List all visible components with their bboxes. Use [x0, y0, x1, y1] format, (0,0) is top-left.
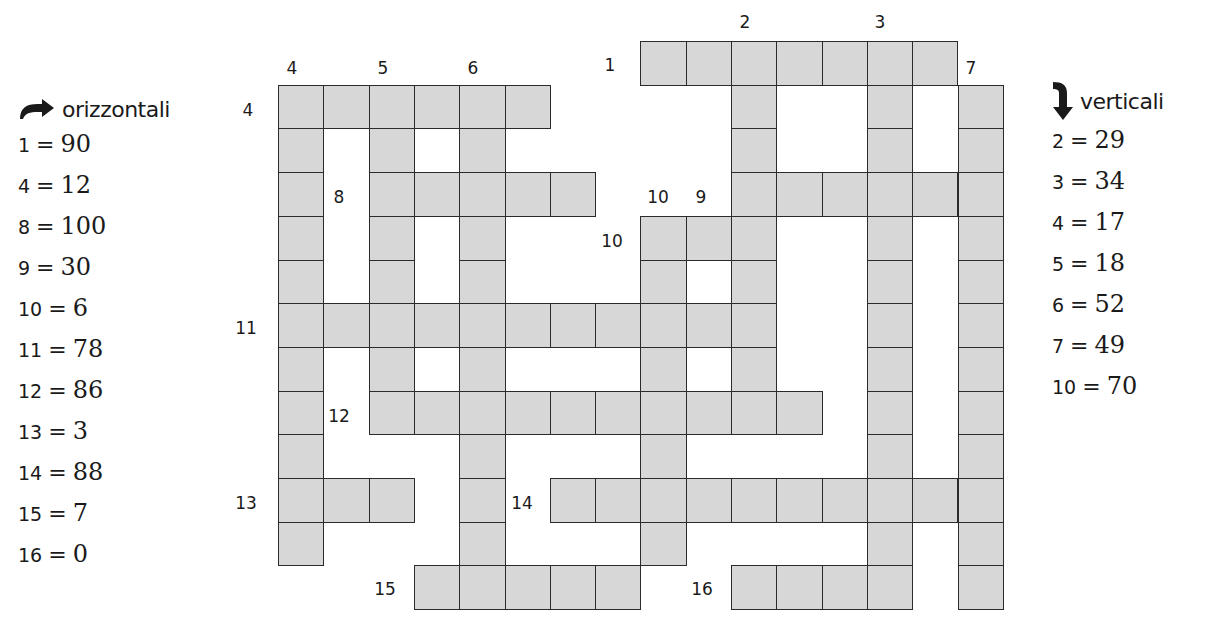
crossword-cell[interactable]: [912, 172, 958, 217]
crossword-cell[interactable]: [459, 522, 506, 566]
crossword-cell[interactable]: [958, 303, 1004, 348]
crossword-cell[interactable]: [550, 391, 596, 435]
crossword-cell[interactable]: [731, 85, 777, 129]
crossword-cell[interactable]: [369, 303, 415, 348]
crossword-cell[interactable]: [414, 391, 460, 435]
crossword-cell[interactable]: [867, 128, 913, 173]
crossword-cell[interactable]: [912, 41, 958, 86]
crossword-cell[interactable]: [640, 522, 687, 566]
crossword-cell[interactable]: [459, 434, 506, 479]
crossword-cell[interactable]: [505, 303, 551, 348]
crossword-cell[interactable]: [731, 41, 777, 86]
crossword-cell[interactable]: [731, 260, 777, 304]
crossword-cell[interactable]: [369, 347, 415, 392]
crossword-cell[interactable]: [822, 478, 868, 523]
crossword-cell[interactable]: [459, 128, 506, 173]
crossword-cell[interactable]: [369, 260, 415, 304]
crossword-cell[interactable]: [640, 260, 687, 304]
crossword-cell[interactable]: [731, 565, 777, 610]
crossword-cell[interactable]: [323, 478, 370, 523]
crossword-cell[interactable]: [731, 478, 777, 523]
crossword-cell[interactable]: [958, 347, 1004, 392]
crossword-cell[interactable]: [550, 565, 596, 610]
crossword-cell[interactable]: [595, 565, 641, 610]
crossword-cell[interactable]: [776, 391, 823, 435]
crossword-cell[interactable]: [731, 347, 777, 392]
crossword-cell[interactable]: [369, 391, 415, 435]
crossword-cell[interactable]: [459, 85, 506, 129]
crossword-cell[interactable]: [958, 128, 1004, 173]
crossword-cell[interactable]: [776, 478, 823, 523]
crossword-cell[interactable]: [958, 216, 1004, 261]
crossword-cell[interactable]: [459, 565, 506, 610]
crossword-cell[interactable]: [369, 478, 415, 523]
crossword-cell[interactable]: [867, 347, 913, 392]
crossword-cell[interactable]: [369, 172, 415, 217]
crossword-cell[interactable]: [414, 172, 460, 217]
crossword-cell[interactable]: [731, 216, 777, 261]
crossword-cell[interactable]: [278, 216, 324, 261]
crossword-cell[interactable]: [867, 172, 913, 217]
crossword-cell[interactable]: [867, 260, 913, 304]
crossword-cell[interactable]: [323, 303, 370, 348]
crossword-cell[interactable]: [278, 128, 324, 173]
crossword-cell[interactable]: [278, 522, 324, 566]
crossword-cell[interactable]: [595, 478, 641, 523]
crossword-cell[interactable]: [278, 347, 324, 392]
crossword-cell[interactable]: [958, 522, 1004, 566]
crossword-cell[interactable]: [414, 85, 460, 129]
crossword-cell[interactable]: [776, 565, 823, 610]
crossword-cell[interactable]: [731, 391, 777, 435]
crossword-cell[interactable]: [640, 303, 687, 348]
crossword-cell[interactable]: [550, 303, 596, 348]
crossword-cell[interactable]: [686, 478, 732, 523]
crossword-cell[interactable]: [414, 565, 460, 610]
crossword-cell[interactable]: [822, 172, 868, 217]
crossword-cell[interactable]: [867, 216, 913, 261]
crossword-cell[interactable]: [459, 260, 506, 304]
crossword-cell[interactable]: [459, 216, 506, 261]
crossword-cell[interactable]: [369, 128, 415, 173]
crossword-cell[interactable]: [459, 172, 506, 217]
crossword-cell[interactable]: [776, 41, 823, 86]
crossword-cell[interactable]: [505, 172, 551, 217]
crossword-cell[interactable]: [595, 391, 641, 435]
crossword-cell[interactable]: [776, 172, 823, 217]
crossword-cell[interactable]: [550, 172, 596, 217]
crossword-cell[interactable]: [731, 128, 777, 173]
crossword-cell[interactable]: [867, 391, 913, 435]
crossword-cell[interactable]: [640, 478, 687, 523]
crossword-cell[interactable]: [278, 478, 324, 523]
crossword-cell[interactable]: [640, 41, 687, 86]
crossword-cell[interactable]: [459, 391, 506, 435]
crossword-cell[interactable]: [278, 172, 324, 217]
crossword-cell[interactable]: [867, 85, 913, 129]
crossword-cell[interactable]: [323, 85, 370, 129]
crossword-cell[interactable]: [867, 434, 913, 479]
crossword-cell[interactable]: [278, 260, 324, 304]
crossword-cell[interactable]: [369, 85, 415, 129]
crossword-cell[interactable]: [731, 172, 777, 217]
crossword-cell[interactable]: [912, 478, 958, 523]
crossword-cell[interactable]: [640, 347, 687, 392]
crossword-cell[interactable]: [686, 216, 732, 261]
crossword-cell[interactable]: [867, 565, 913, 610]
crossword-cell[interactable]: [867, 522, 913, 566]
crossword-cell[interactable]: [278, 391, 324, 435]
crossword-cell[interactable]: [867, 478, 913, 523]
crossword-cell[interactable]: [414, 303, 460, 348]
crossword-cell[interactable]: [640, 434, 687, 479]
crossword-cell[interactable]: [640, 391, 687, 435]
crossword-cell[interactable]: [459, 347, 506, 392]
crossword-cell[interactable]: [958, 85, 1004, 129]
crossword-cell[interactable]: [278, 303, 324, 348]
crossword-cell[interactable]: [958, 391, 1004, 435]
crossword-cell[interactable]: [459, 303, 506, 348]
crossword-cell[interactable]: [686, 303, 732, 348]
crossword-cell[interactable]: [278, 434, 324, 479]
crossword-cell[interactable]: [686, 391, 732, 435]
crossword-cell[interactable]: [686, 41, 732, 86]
crossword-cell[interactable]: [278, 85, 324, 129]
crossword-cell[interactable]: [958, 565, 1004, 610]
crossword-cell[interactable]: [640, 216, 687, 261]
